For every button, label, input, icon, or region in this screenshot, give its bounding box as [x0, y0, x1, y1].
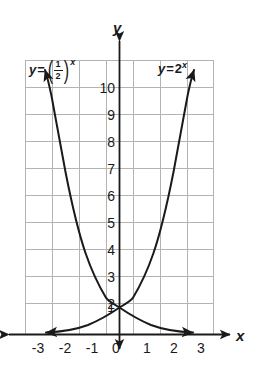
- x-axis-label: x: [236, 328, 244, 343]
- curve-growth-2-to-the-x: [120, 70, 195, 308]
- x-tick-label-1: 1: [136, 341, 158, 355]
- curve-label-decay: y=(12)x: [29, 60, 75, 81]
- y-tick-label-9: 9: [89, 108, 115, 122]
- one-half-fraction: 12: [54, 60, 63, 81]
- y-tick-label-3: 3: [89, 270, 115, 284]
- exponential-functions-graph: y x 10 9 8 7 6 5 4 3 2 1 -3 -2 -1 0 1 2 …: [0, 0, 258, 384]
- fraction-denominator: 2: [55, 71, 60, 81]
- y-tick-label-7: 7: [89, 162, 115, 176]
- y-tick-label-8: 8: [89, 135, 115, 149]
- left-paren-glyph: (: [47, 60, 52, 80]
- fraction-numerator: 1: [55, 60, 60, 70]
- right-paren-glyph: ): [63, 60, 68, 80]
- x-tick-label-2: 2: [163, 341, 185, 355]
- graph-canvas: [0, 0, 258, 384]
- decay-label-exponent: x: [70, 57, 75, 67]
- y-tick-label-10: 10: [89, 81, 115, 95]
- growth-label-exponent: x: [182, 60, 187, 70]
- y-tick-label-4: 4: [89, 243, 115, 257]
- y-tick-label-1-visible: 1: [93, 300, 115, 314]
- decay-label-equals: =: [36, 62, 46, 77]
- x-tick-label-neg2: -2: [54, 341, 76, 355]
- growth-label-equals: =: [165, 61, 175, 76]
- x-tick-label-neg1: -1: [81, 341, 103, 355]
- x-tick-label-0: 0: [105, 341, 127, 355]
- x-tick-label-3: 3: [190, 341, 212, 355]
- growth-label-base: 2: [175, 61, 182, 76]
- y-tick-label-5: 5: [89, 216, 115, 230]
- curve-decay-asymptote-tail: [120, 308, 194, 333]
- curve-label-growth: y=2x: [158, 62, 187, 75]
- decay-label-fraction-group: (12): [46, 60, 70, 81]
- y-tick-label-6: 6: [89, 189, 115, 203]
- x-tick-label-neg3: -3: [27, 341, 49, 355]
- y-axis-label: y: [113, 20, 121, 35]
